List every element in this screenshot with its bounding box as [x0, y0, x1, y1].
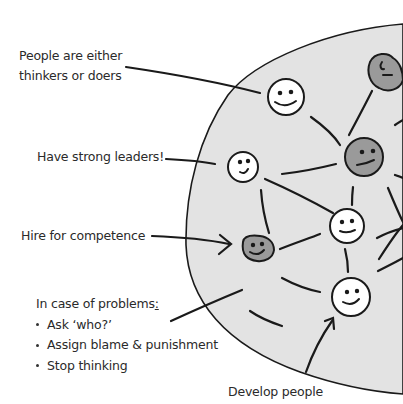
link: [352, 187, 353, 205]
problems-item: Stop thinking: [36, 356, 218, 377]
label-line: People are either: [19, 46, 122, 66]
arrow-thinkers: [126, 67, 260, 93]
heading-colon: :: [155, 294, 159, 315]
face-3-icon: [228, 152, 258, 182]
problems-item: Assign blame & punishment: [36, 335, 218, 356]
label-develop-people: Develop people: [228, 382, 323, 402]
problems-heading: In case of problems:: [36, 294, 218, 315]
face-4-icon: [345, 138, 383, 176]
bullet-icon: [36, 364, 39, 367]
bullet-icon: [36, 323, 39, 326]
label-strong-leaders: Have strong leaders!: [37, 147, 164, 167]
label-hire-competence: Hire for competence: [21, 226, 145, 246]
face-6-icon: [330, 209, 364, 243]
label-thinkers-doers: People are either thinkers or doers: [19, 46, 122, 86]
label-line: thinkers or doers: [19, 66, 122, 86]
face-1-icon: [268, 79, 304, 115]
item-text: Stop thinking: [47, 356, 128, 377]
bullet-icon: [36, 344, 39, 347]
problems-list: In case of problems: Ask ‘who?’ Assign b…: [36, 294, 218, 376]
problems-item: Ask ‘who?’: [36, 315, 218, 336]
face-5-icon: [243, 236, 274, 261]
heading-text: In case of problems: [36, 294, 155, 315]
item-text: Ask ‘who?’: [47, 315, 112, 336]
item-text: Assign blame & punishment: [47, 335, 218, 356]
face-7-icon: [332, 278, 370, 316]
